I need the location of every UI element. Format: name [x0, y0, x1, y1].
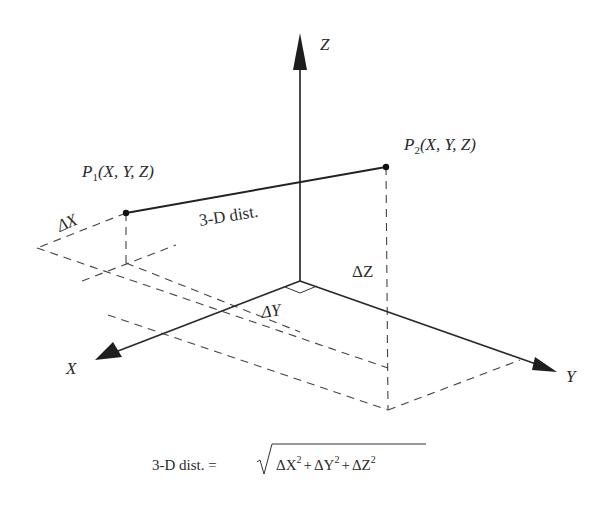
distance-formula: 3-D dist. = ΔX2+ΔY2+ΔZ2 — [152, 444, 426, 474]
p1-to-apex-dash — [37, 213, 126, 248]
segment-label: 3-D dist. — [198, 202, 260, 230]
y-axis — [300, 281, 536, 364]
bottom-right-dash — [388, 360, 520, 410]
formula-lhs: 3-D dist. = — [152, 457, 217, 473]
axes — [95, 33, 557, 372]
right-angle-marker — [285, 286, 317, 293]
delta-y-label: ΔY — [259, 300, 283, 322]
formula-radicand: ΔX2+ΔY2+ΔZ2 — [276, 454, 376, 473]
p1-foot-cross-dash — [82, 245, 176, 281]
p1-label: P1(X, Y, Z) — [81, 162, 154, 183]
y-arrowhead-icon — [532, 357, 557, 372]
p2-label: P2(X, Y, Z) — [403, 135, 476, 156]
z-arrowhead-icon — [293, 33, 307, 70]
z-axis-label: Z — [320, 35, 330, 54]
x-axis-label: X — [65, 359, 77, 378]
delta-z-label: ΔZ — [352, 262, 373, 281]
apex-to-p2-vertical-dash — [37, 248, 388, 368]
p2-vertical-dash — [386, 167, 388, 410]
p1-point — [123, 210, 129, 216]
p2-point — [383, 164, 389, 170]
delta-x-label: ΔX — [53, 210, 81, 236]
x-arrowhead-icon — [95, 342, 122, 360]
y-axis-label: Y — [566, 367, 577, 386]
lower-parallel-dash — [108, 315, 388, 410]
p1-foot-to-x-axis-dash — [126, 263, 300, 332]
3d-distance-diagram: Z Y X P1(X, Y, Z) P2(X, Y, Z) 3-D dist. … — [0, 0, 608, 505]
